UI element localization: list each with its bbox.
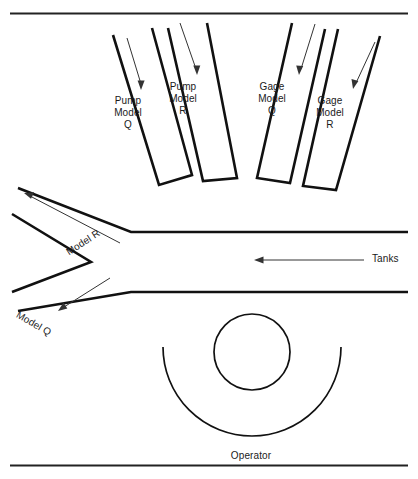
flow-arrow-model-q (58, 278, 110, 311)
aisle-wall-upper (18, 188, 408, 232)
operator-station-arc (163, 347, 341, 436)
aisle-wall-lower (18, 292, 408, 311)
facility-layout-diagram: Pump Model Q Pump Model R Gage Model Q G… (0, 0, 418, 479)
operator-station-circle (214, 314, 290, 390)
bay-label-pump-model-q: Pump Model Q (100, 95, 156, 131)
bay-label-pump-model-r: Pump Model R (155, 81, 211, 117)
bay-feed-arrow-gage-model-q (296, 24, 315, 75)
bay-feed-arrow-pump-model-r (180, 23, 200, 75)
bay-feed-arrow-pump-model-q (127, 38, 145, 90)
bay-label-gage-model-q: Gage Model Q (244, 81, 300, 117)
bay-label-gage-model-r: Gage Model R (302, 95, 358, 131)
annotation-label-tanks: Tanks (372, 253, 399, 265)
aisle-wedge-island (12, 214, 91, 292)
flow-arrow-model-r (24, 192, 120, 243)
layout-svg (0, 0, 418, 479)
annotation-label-operator: Operator (201, 450, 301, 462)
flow-arrow-tanks (254, 257, 364, 264)
